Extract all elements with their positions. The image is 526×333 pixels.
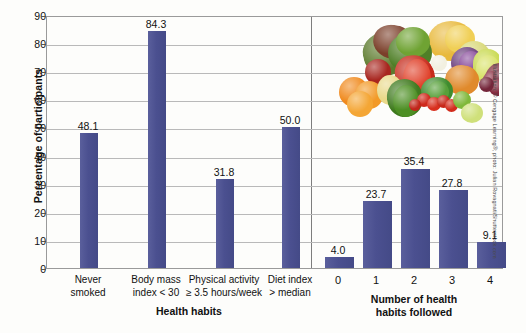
- bar-value-label: 48.1: [78, 120, 98, 132]
- bar: [325, 257, 354, 268]
- bar: [148, 31, 166, 268]
- bar: [282, 127, 300, 268]
- chart-figure: Percentage of participants 0102030405060…: [0, 0, 526, 333]
- gridline: [47, 186, 502, 187]
- gridline: [47, 214, 502, 215]
- x-axis-category-label: 3: [449, 274, 455, 286]
- produce-photo: [333, 19, 499, 132]
- x-axis-category-label: Physical activity≥ 3.5 hours/week: [186, 274, 262, 299]
- x-axis-category-label: 2: [411, 274, 417, 286]
- x-axis-category-label: Diet index> median: [268, 274, 312, 299]
- produce-item: [431, 55, 447, 71]
- produce-item: [409, 99, 421, 111]
- bar-value-label: 84.3: [146, 18, 166, 30]
- x-axis-title-left: Health habits: [156, 305, 222, 318]
- photo-credit: Illustration: © Cengage Learning®; photo…: [492, 64, 498, 239]
- bar-value-label: 9.1: [483, 229, 498, 241]
- produce-item: [347, 91, 373, 117]
- x-axis-title-right: Number of healthhabits followed: [371, 293, 457, 319]
- y-axis: 0102030405060708090: [0, 16, 46, 269]
- x-axis-category-label: Body massindex < 30: [131, 274, 180, 299]
- gridline: [47, 242, 502, 243]
- x-axis-category-label: Neversmoked: [70, 274, 105, 299]
- bar: [216, 179, 234, 268]
- bar: [363, 201, 392, 268]
- bar-value-label: 50.0: [280, 114, 300, 126]
- gridline: [47, 158, 502, 159]
- x-axis-category-label: 4: [487, 274, 493, 286]
- bar-value-label: 27.8: [442, 177, 462, 189]
- produce-item: [396, 27, 430, 57]
- x-axis-category-label: 0: [335, 274, 341, 286]
- bar-value-label: 23.7: [366, 188, 386, 200]
- bar: [401, 169, 430, 269]
- bar-value-label: 31.8: [214, 166, 234, 178]
- y-axis-tick-mark: [41, 269, 46, 270]
- bar: [439, 190, 468, 268]
- bar-value-label: 35.4: [404, 155, 424, 167]
- bar: [80, 133, 98, 268]
- bar-value-label: 4.0: [331, 244, 346, 256]
- panel-divider: [311, 17, 312, 268]
- x-axis-category-label: 1: [373, 274, 379, 286]
- produce-item: [461, 103, 483, 123]
